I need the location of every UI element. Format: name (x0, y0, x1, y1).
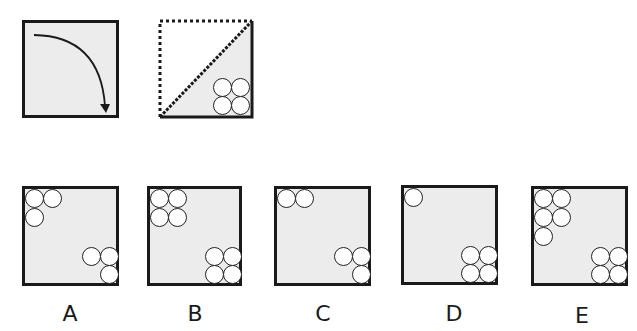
circle (534, 208, 553, 227)
circle (231, 96, 250, 115)
option-d-figure[interactable] (401, 185, 498, 285)
circle (461, 264, 480, 283)
circle (223, 265, 242, 284)
circle (591, 247, 610, 266)
option-e-figure[interactable] (531, 186, 628, 286)
circle (168, 208, 187, 227)
circle (277, 189, 296, 208)
option-d-label[interactable]: D (434, 302, 474, 326)
circle (205, 265, 224, 284)
circle (352, 247, 371, 266)
circle (150, 189, 169, 208)
circle (150, 208, 169, 227)
circle (82, 247, 101, 266)
circle (334, 247, 353, 266)
circle (25, 189, 44, 208)
option-a-figure[interactable] (22, 186, 119, 286)
option-a-label[interactable]: A (50, 302, 90, 326)
circle (479, 246, 498, 265)
circle (534, 227, 553, 246)
circle (609, 265, 628, 284)
circle (404, 188, 423, 207)
circle (100, 247, 119, 266)
circle (213, 78, 232, 97)
circle (100, 265, 119, 284)
circle (479, 264, 498, 283)
circle (168, 189, 187, 208)
option-b-figure[interactable] (147, 186, 242, 286)
circle (231, 78, 250, 97)
circle (223, 247, 242, 266)
circle (461, 246, 480, 265)
circle (213, 96, 232, 115)
circle (609, 247, 628, 266)
circle (591, 265, 610, 284)
circle (534, 189, 553, 208)
circle (552, 189, 571, 208)
option-e-label[interactable]: E (562, 304, 602, 328)
circle (25, 208, 44, 227)
circle (295, 189, 314, 208)
option-b-label[interactable]: B (175, 302, 215, 326)
circle (552, 208, 571, 227)
circle (352, 265, 371, 284)
option-c-figure[interactable] (274, 186, 371, 286)
circle (43, 189, 62, 208)
option-c-label[interactable]: C (303, 302, 343, 326)
circle (205, 247, 224, 266)
